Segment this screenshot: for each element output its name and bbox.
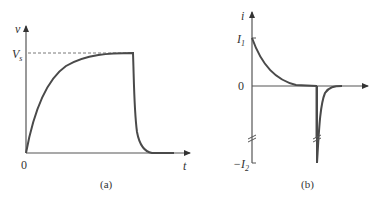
panel-a: v Vs 0 t (a) — [12, 22, 190, 191]
caption-a: (a) — [100, 178, 113, 191]
t-axis-label: t — [183, 159, 187, 173]
i1-label: I1 — [236, 32, 245, 48]
origin-label: 0 — [21, 158, 27, 172]
v-axis-label: v — [15, 22, 21, 36]
current-spike-curve — [317, 86, 342, 163]
caption-b: (b) — [301, 178, 314, 191]
zero-label: 0 — [238, 79, 244, 93]
panel-b: i I1 0 −I2 (b) — [233, 9, 368, 191]
vs-label: Vs — [12, 47, 22, 63]
figure-canvas: v Vs 0 t (a) i I1 0 −I2 (b) — [0, 0, 382, 200]
i-axis-label: i — [241, 9, 244, 23]
current-decay-curve — [252, 38, 317, 86]
neg-i2-label: −I2 — [233, 157, 249, 173]
voltage-curve — [26, 53, 174, 153]
